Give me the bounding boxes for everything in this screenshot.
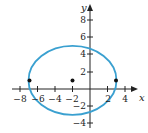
- ellipse-diagram: −8 −6 −4 −2 2 4 x 8 6 4 2 −2 −4 y: [0, 0, 148, 133]
- x-tick-label: 4: [122, 94, 128, 104]
- point-left-vertex: [28, 78, 32, 82]
- y-tick-label: 4: [80, 49, 86, 59]
- points: [28, 78, 119, 82]
- point-center: [71, 78, 75, 82]
- x-axis-arrow-icon: [131, 86, 138, 92]
- y-tick-label: 6: [80, 32, 86, 42]
- y-tick-label: 2: [80, 67, 86, 77]
- y-tick-label: −4: [73, 118, 87, 128]
- y-axis-label: y: [80, 2, 87, 13]
- x-axis-label: x: [139, 92, 145, 103]
- x-tick-label: −8: [13, 94, 27, 104]
- y-axis-arrow-icon: [87, 4, 93, 11]
- y-tick-label: −2: [73, 101, 86, 111]
- x-tick-label: −6: [31, 94, 45, 104]
- x-tick-label: −4: [48, 94, 62, 104]
- x-tick-label: 2: [105, 94, 111, 104]
- y-tick-label: 8: [80, 15, 86, 25]
- x-tick-labels: −8 −6 −4 −2 2 4: [13, 94, 128, 104]
- y-tick-labels: 8 6 4 2 −2 −4: [73, 15, 87, 128]
- point-right-vertex: [114, 78, 118, 82]
